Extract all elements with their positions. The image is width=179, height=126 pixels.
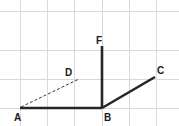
point-label-f: F [96,35,102,46]
geometry-figure: ABCDF [0,0,179,126]
point-label-c: C [157,65,164,76]
point-label-a: A [14,112,21,123]
point-label-b: B [104,112,111,123]
figure-canvas: ABCDF [0,0,179,126]
point-label-d: D [65,67,72,78]
